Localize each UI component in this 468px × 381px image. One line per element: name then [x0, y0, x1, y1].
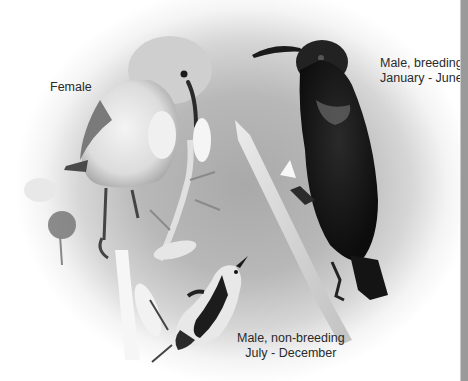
- male-breeding-bird: [252, 40, 388, 300]
- label-male-breeding-months: January - June: [380, 71, 463, 86]
- label-male-non-breeding: Male, non-breeding July - December: [237, 331, 345, 361]
- label-male-non-breeding-months: July - December: [237, 346, 345, 361]
- label-female: Female: [50, 80, 92, 95]
- label-female-text: Female: [50, 80, 92, 95]
- label-male-non-breeding-title: Male, non-breeding: [237, 331, 345, 346]
- page-edge-strip: [460, 0, 468, 381]
- male-non-breeding-bird: [150, 256, 248, 362]
- photo-composite: Female Male, breeding January - June Mal…: [0, 0, 468, 381]
- label-male-breeding: Male, breeding January - June: [380, 56, 463, 86]
- label-male-breeding-title: Male, breeding: [380, 56, 463, 71]
